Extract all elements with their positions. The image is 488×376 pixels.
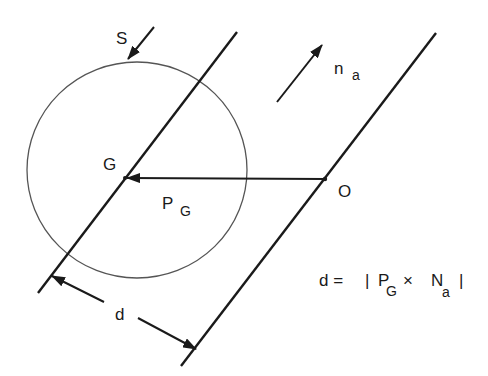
formula-times: × [403, 271, 413, 290]
label-O: O [338, 182, 351, 201]
formula-N-subscript: a [442, 284, 450, 300]
formula-P-subscript: G [386, 283, 397, 299]
label-P: P [162, 194, 173, 213]
diagram-canvas: S n a G O P G d d = | P G × N a | [0, 0, 488, 376]
point-O-dot [323, 177, 327, 181]
axis-line-through-O [181, 33, 436, 366]
label-P-subscript: G [180, 203, 191, 219]
formula-bar-close: | [459, 271, 463, 290]
dimension-arrow-right [138, 318, 196, 349]
label-d: d [115, 305, 124, 324]
circle [27, 62, 247, 278]
direction-arrow-n_a [277, 45, 322, 102]
formula-lhs: d = [319, 271, 343, 290]
label-n-subscript: a [352, 67, 360, 83]
diagram-svg: S n a G O P G d d = | P G × N a | [0, 0, 488, 376]
vector-P_G-arrow [127, 178, 325, 179]
dimension-arrow-left [52, 276, 104, 302]
formula: d = | P G × N a | [319, 271, 463, 300]
label-S: S [116, 29, 127, 48]
arrow-S [128, 27, 154, 59]
label-n: n [334, 59, 343, 78]
formula-bar-open: | [365, 271, 369, 290]
point-G-dot [123, 176, 127, 180]
label-G: G [103, 155, 116, 174]
